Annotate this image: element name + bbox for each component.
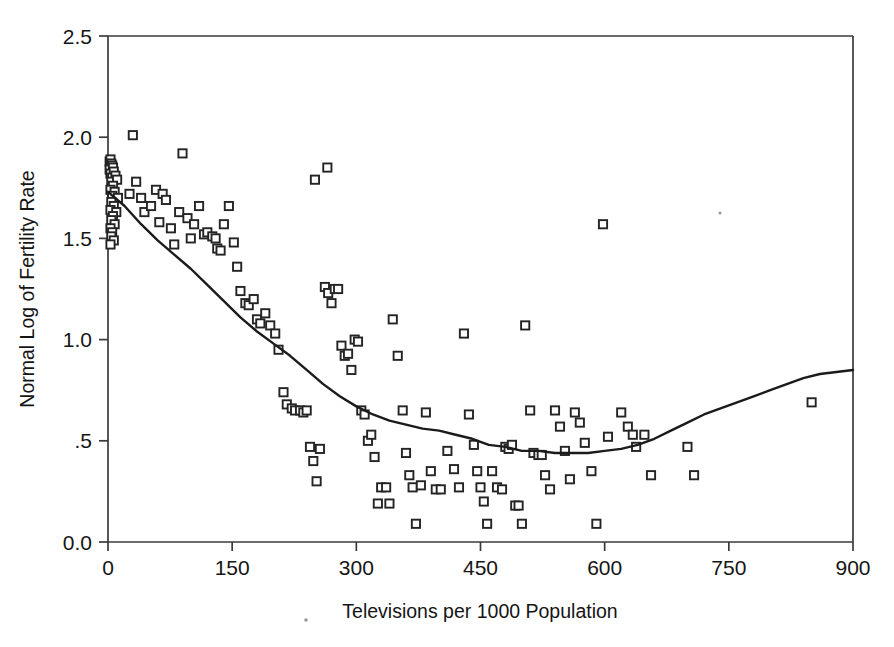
scatter-point bbox=[465, 410, 473, 418]
scatter-point bbox=[344, 350, 352, 358]
scatter-point bbox=[470, 441, 478, 449]
x-axis-title: Televisions per 1000 Population bbox=[342, 600, 617, 622]
scatter-point bbox=[132, 178, 140, 186]
scatter-point bbox=[556, 423, 564, 431]
scatter-point bbox=[236, 287, 244, 295]
scatter-point bbox=[370, 453, 378, 461]
scatter-point bbox=[624, 423, 632, 431]
scatter-point bbox=[162, 196, 170, 204]
scatter-point bbox=[106, 240, 114, 248]
scatter-point bbox=[599, 220, 607, 228]
scatter-point bbox=[347, 366, 355, 374]
scatter-point bbox=[256, 319, 264, 327]
scatter-point bbox=[683, 443, 691, 451]
scatter-point bbox=[367, 431, 375, 439]
x-tick-label: 150 bbox=[215, 556, 250, 579]
scatter-point bbox=[427, 467, 435, 475]
scatter-point bbox=[155, 218, 163, 226]
y-tick-label: 2.0 bbox=[63, 126, 92, 149]
scatter-point bbox=[316, 445, 324, 453]
scatter-point bbox=[137, 194, 145, 202]
lowess-smoother-curve bbox=[108, 192, 853, 453]
scatter-point bbox=[488, 467, 496, 475]
scatter-point bbox=[271, 329, 279, 337]
scatter-point bbox=[409, 483, 417, 491]
x-axis-tick-labels: 0150300450600750900 bbox=[102, 556, 870, 579]
scatter-point bbox=[629, 431, 637, 439]
x-tick-label: 300 bbox=[339, 556, 374, 579]
scatter-point bbox=[566, 475, 574, 483]
scatter-point bbox=[483, 520, 491, 528]
scatter-point bbox=[450, 465, 458, 473]
scatter-point bbox=[225, 202, 233, 210]
scatter-point bbox=[480, 497, 488, 505]
scatter-point bbox=[460, 329, 468, 337]
scatter-point bbox=[422, 408, 430, 416]
scatter-point bbox=[405, 471, 413, 479]
y-tick-label: 2.5 bbox=[63, 25, 92, 48]
scatter-point bbox=[399, 406, 407, 414]
y-axis-tick-marks bbox=[99, 36, 108, 542]
scatter-point bbox=[170, 240, 178, 248]
scatter-point bbox=[266, 321, 274, 329]
scatter-point bbox=[374, 499, 382, 507]
scatter-point bbox=[125, 190, 133, 198]
scatter-point bbox=[303, 406, 311, 414]
scatter-point bbox=[233, 263, 241, 271]
scatter-point bbox=[311, 176, 319, 184]
scatter-point bbox=[212, 234, 220, 242]
x-tick-label: 600 bbox=[587, 556, 622, 579]
scatter-point bbox=[354, 338, 362, 346]
x-axis-tick-marks bbox=[108, 542, 853, 551]
scatter-point bbox=[647, 471, 655, 479]
scatter-point bbox=[455, 483, 463, 491]
scatter-point bbox=[581, 439, 589, 447]
scatter-point bbox=[521, 321, 529, 329]
scatter-point bbox=[526, 406, 534, 414]
plot-frame bbox=[108, 36, 853, 542]
scatter-point bbox=[518, 520, 526, 528]
y-axis-tick-labels: 0.0.51.01.52.02.5 bbox=[63, 25, 92, 554]
scatter-point bbox=[190, 220, 198, 228]
scatter-point bbox=[337, 342, 345, 350]
scatter-point bbox=[592, 520, 600, 528]
scatter-point bbox=[323, 163, 331, 171]
y-tick-label: 1.0 bbox=[63, 328, 92, 351]
scatter-point bbox=[437, 485, 445, 493]
scatter-point bbox=[498, 485, 506, 493]
scatter-point bbox=[617, 408, 625, 416]
scatter-point bbox=[313, 477, 321, 485]
scatter-point bbox=[187, 234, 195, 242]
scatter-point bbox=[571, 408, 579, 416]
scatter-point bbox=[473, 467, 481, 475]
y-tick-label: 1.5 bbox=[63, 227, 92, 250]
scatter-point bbox=[546, 485, 554, 493]
scatter-plot-svg: 0150300450600750900 0.0.51.01.52.02.5 Te… bbox=[0, 0, 894, 647]
scatter-point bbox=[167, 224, 175, 232]
scatter-point bbox=[220, 220, 228, 228]
scatter-point bbox=[640, 431, 648, 439]
scatter-point bbox=[216, 246, 224, 254]
scatter-point bbox=[604, 433, 612, 441]
scatter-point bbox=[195, 202, 203, 210]
scatter-point bbox=[576, 418, 584, 426]
scatter-point bbox=[443, 447, 451, 455]
scatter-point bbox=[309, 457, 317, 465]
scatter-point bbox=[385, 499, 393, 507]
scatter-point bbox=[541, 471, 549, 479]
scatter-point bbox=[334, 285, 342, 293]
scatter-point bbox=[230, 238, 238, 246]
scan-speck bbox=[718, 211, 721, 214]
scatter-point bbox=[808, 398, 816, 406]
scatter-point bbox=[147, 202, 155, 210]
scatter-point bbox=[389, 315, 397, 323]
scatter-point bbox=[417, 481, 425, 489]
scatter-point bbox=[514, 501, 522, 509]
scatter-point bbox=[175, 208, 183, 216]
chart-figure: 0150300450600750900 0.0.51.01.52.02.5 Te… bbox=[0, 0, 894, 647]
scatter-point bbox=[402, 449, 410, 457]
scatter-point bbox=[412, 520, 420, 528]
scatter-point bbox=[306, 443, 314, 451]
x-tick-label: 900 bbox=[835, 556, 870, 579]
scatter-point bbox=[394, 352, 402, 360]
